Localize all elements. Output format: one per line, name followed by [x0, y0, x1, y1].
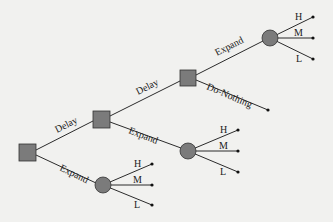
edge-label-d3-do-nothing: Do-Nothing — [205, 81, 254, 110]
outcome-label-c1-l: L — [134, 199, 140, 210]
terminal-c3-h — [311, 15, 314, 18]
terminal-c1-h — [150, 162, 153, 165]
chance-node-c2 — [180, 143, 196, 159]
terminal-do-nothing — [266, 108, 269, 111]
outcome-label-c3-h: H — [295, 11, 302, 22]
terminal-c2-m — [236, 149, 239, 152]
terminal-c2-l — [236, 170, 239, 173]
outcome-label-c2-m: M — [219, 140, 228, 151]
outcome-label-c3-l: L — [296, 53, 302, 64]
terminal-c1-m — [150, 183, 153, 186]
terminal-c1-l — [150, 203, 153, 206]
decision-node-d2 — [93, 111, 110, 128]
terminal-c2-h — [236, 128, 239, 131]
edge-label-d1-expand: Expand — [58, 162, 90, 185]
outcome-label-c1-h: H — [134, 158, 141, 169]
outcome-label-c2-l: L — [220, 166, 226, 177]
edge-label-d2-delay: Delay — [134, 76, 160, 97]
decision-node-d1 — [19, 144, 36, 161]
outcome-label-c3-m: M — [294, 27, 303, 38]
edge-label-d2-expand: Expand — [127, 125, 159, 146]
decision-tree: Delay Expand Delay Expand Expand Do-Noth… — [0, 0, 333, 222]
terminal-c3-m — [311, 36, 314, 39]
outcome-label-c2-h: H — [220, 124, 227, 135]
outcome-label-c1-m: M — [133, 174, 142, 185]
edge-label-d1-delay: Delay — [53, 114, 79, 135]
chance-node-c1 — [95, 177, 111, 193]
terminal-c3-l — [311, 57, 314, 60]
chance-node-c3 — [262, 30, 278, 46]
decision-node-d3 — [180, 70, 196, 86]
edge-label-d3-expand: Expand — [213, 34, 245, 58]
